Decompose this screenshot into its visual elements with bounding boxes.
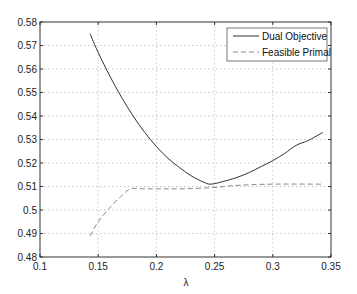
line-chart: 0.10.150.20.250.30.35 0.480.490.50.510.5… (0, 0, 357, 294)
legend-label-primal: Feasible Primal (262, 47, 331, 58)
x-tick-label: 0.3 (266, 261, 280, 272)
x-tick-label: 0.35 (321, 261, 341, 272)
y-tick-label: 0.5 (23, 205, 37, 216)
y-tick-label: 0.57 (18, 40, 38, 51)
x-tick-labels: 0.10.150.20.250.30.35 (33, 261, 341, 272)
y-tick-labels: 0.480.490.50.510.520.530.540.550.560.570… (18, 17, 38, 263)
x-tick-label: 0.2 (149, 261, 163, 272)
y-tick-label: 0.54 (18, 111, 38, 122)
x-tick-label: 0.25 (205, 261, 225, 272)
legend-label-dual: Dual Objective (262, 31, 327, 42)
y-tick-label: 0.48 (18, 252, 38, 263)
legend: Dual Objective Feasible Primal (227, 28, 331, 61)
y-tick-label: 0.58 (18, 17, 38, 28)
y-tick-label: 0.51 (18, 181, 38, 192)
y-tick-label: 0.53 (18, 134, 38, 145)
x-axis-label: λ (184, 277, 189, 288)
y-tick-label: 0.52 (18, 158, 38, 169)
series-lines (90, 34, 323, 236)
y-tick-label: 0.49 (18, 228, 38, 239)
y-tick-label: 0.55 (18, 87, 38, 98)
y-tick-label: 0.56 (18, 64, 38, 75)
x-tick-label: 0.15 (88, 261, 108, 272)
x-tick-label: 0.1 (33, 261, 47, 272)
